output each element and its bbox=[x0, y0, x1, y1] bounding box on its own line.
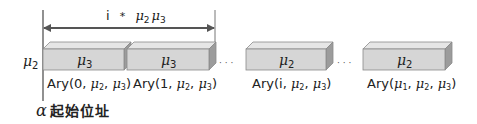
block-1-address-label: Ary(1, μ2, μ3) bbox=[133, 77, 217, 92]
block-last-address-label: Ary(μ1, μ2, μ3) bbox=[367, 77, 456, 92]
alpha-symbol: α bbox=[36, 101, 47, 120]
base-address-text: 起始位址 bbox=[50, 103, 110, 119]
base-address-caption: α起始位址 bbox=[36, 103, 110, 119]
row-size-label: μ2 bbox=[23, 53, 38, 71]
block-i-address-label: Ary(i, μ2, μ3) bbox=[252, 77, 331, 92]
ellipsis-2: · · · bbox=[337, 58, 351, 68]
block-0-address-label: Ary(0, μ2, μ3) bbox=[47, 77, 131, 92]
diagram-canvas: μ3 μ3 μ2 μ2 μ2 i * μ2μ3 · · · · · · Ary(… bbox=[0, 0, 477, 124]
span-label: i * μ2μ3 bbox=[106, 8, 166, 25]
ellipsis-1: · · · bbox=[219, 58, 233, 68]
